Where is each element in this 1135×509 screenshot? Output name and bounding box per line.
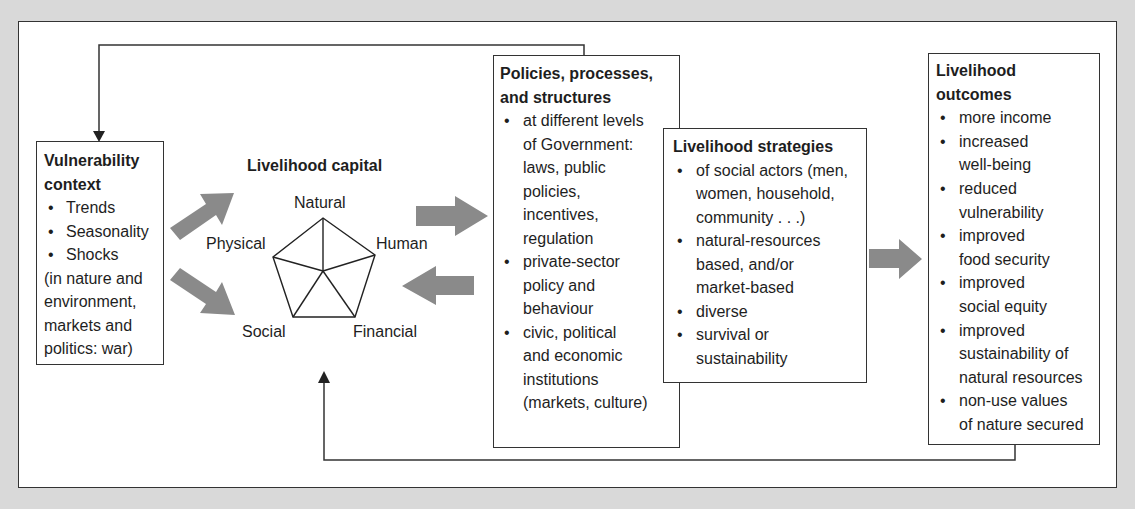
capital-label-physical: Physical [206,235,266,253]
list-item: survival or sustainability [673,323,866,370]
list-item: improved food security [936,224,1099,271]
arrow-up-right-icon [170,193,234,240]
capital-label-natural: Natural [294,194,346,212]
list-item-line: market-based [696,276,866,300]
list-item: of social actors (men, women, household,… [673,159,866,230]
list-item-line: civic, political [523,321,679,345]
list-item-line: community . . .) [696,206,866,230]
list-item-line: and economic [523,344,679,368]
arrow-right-icon [869,239,922,279]
list-item-line: survival or [696,323,866,347]
strategies-list: of social actors (men, women, household,… [673,159,866,371]
capital-pentagon [273,218,375,317]
outcomes-box: Livelihood outcomes more income increase… [928,53,1100,445]
list-item: at different levels of Government: laws,… [500,109,679,250]
policies-title: and structures [500,86,679,110]
list-item-line: incentives, [523,203,679,227]
list-item: diverse [673,300,866,324]
outcomes-title: outcomes [936,83,1099,107]
list-item: private-sector policy and behaviour [500,250,679,321]
vulnerability-note: (in nature and [44,267,163,291]
policies-title: Policies, processes, [500,62,679,86]
arrow-down-right-icon [170,268,235,315]
list-item-line: sustainability [696,347,866,371]
strategies-box: Livelihood strategies of social actors (… [663,128,867,383]
list-item: improved social equity [936,271,1099,318]
list-item-line: vulnerability [959,201,1099,225]
policies-list: at different levels of Government: laws,… [500,109,679,415]
list-item-line: improved [959,271,1099,295]
outcomes-list: more income increased well-being reduced… [936,106,1099,436]
list-item-line: social equity [959,295,1099,319]
list-item: Trends [44,196,163,220]
list-item-line: based, and/or [696,253,866,277]
list-item: Shocks [44,243,163,267]
list-item: Seasonality [44,220,163,244]
list-item-line: of nature secured [959,413,1099,437]
arrow-right-icon [416,196,488,236]
list-item-line: women, household, [696,182,866,206]
capital-label-financial: Financial [353,323,417,341]
list-item-line: increased [959,130,1099,154]
policies-box: Policies, processes, and structures at d… [493,55,680,448]
capital-label-human: Human [376,235,428,253]
vulnerability-note: politics: war) [44,337,163,361]
list-item-line: diverse [696,300,866,324]
list-item: reduced vulnerability [936,177,1099,224]
list-item-line: natural resources [959,366,1099,390]
list-item-line: institutions [523,368,679,392]
capital-title: Livelihood capital [247,157,382,175]
list-item-line: of social actors (men, [696,159,866,183]
list-item-line: food security [959,248,1099,272]
vulnerability-title: Vulnerability [44,149,163,173]
list-item-line: non-use values [959,389,1099,413]
capital-label-social: Social [242,323,286,341]
list-item-line: more income [959,106,1099,130]
strategies-title: Livelihood strategies [673,135,866,159]
list-item: natural-resources based, and/or market-b… [673,229,866,300]
list-item-line: regulation [523,227,679,251]
list-item-line: policy and [523,274,679,298]
list-item-line: natural-resources [696,229,866,253]
list-item-line: laws, public [523,156,679,180]
vulnerability-note: markets and [44,314,163,338]
vulnerability-note: environment, [44,290,163,314]
list-item-line: (markets, culture) [523,391,679,415]
list-item-line: of Government: [523,133,679,157]
list-item: more income [936,106,1099,130]
list-item-line: sustainability of [959,342,1099,366]
list-item-line: at different levels [523,109,679,133]
outcomes-title: Livelihood [936,59,1099,83]
arrow-left-icon [402,266,474,305]
list-item: improved sustainability of natural resou… [936,319,1099,390]
list-item: non-use values of nature secured [936,389,1099,436]
list-item-line: private-sector [523,250,679,274]
list-item-line: behaviour [523,297,679,321]
vulnerability-context-box: Vulnerability context Trends Seasonality… [36,141,164,365]
list-item-line: improved [959,224,1099,248]
list-item-line: well-being [959,153,1099,177]
list-item: increased well-being [936,130,1099,177]
vulnerability-list: Trends Seasonality Shocks [44,196,163,267]
list-item: civic, political and economic institutio… [500,321,679,415]
list-item-line: reduced [959,177,1099,201]
arrowhead-up-icon [318,371,330,383]
list-item-line: policies, [523,180,679,204]
vulnerability-title: context [44,173,163,197]
list-item-line: improved [959,319,1099,343]
